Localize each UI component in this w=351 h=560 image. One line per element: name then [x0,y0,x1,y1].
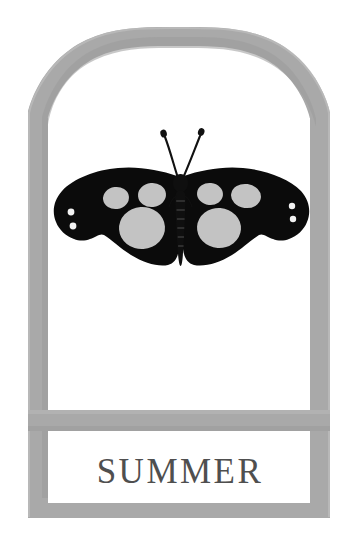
horizontal-divider-bar [28,410,330,431]
title-panel: SUMMER [48,431,310,503]
thorax [173,174,188,192]
antenna-club-right [197,127,206,137]
antennae [165,136,200,178]
dot-right-lower [290,216,296,222]
antenna-club-left [159,129,167,138]
plaque-canvas: SUMMER [0,0,351,560]
plaque-illustration: SUMMER [0,0,351,560]
dot-left-upper [68,209,75,216]
butterfly-specimen [54,127,309,266]
dot-left-lower [70,223,77,230]
page-title: SUMMER [97,452,264,491]
antenna-left [165,137,178,178]
antenna-right [183,136,200,178]
dot-right-upper [289,203,295,209]
